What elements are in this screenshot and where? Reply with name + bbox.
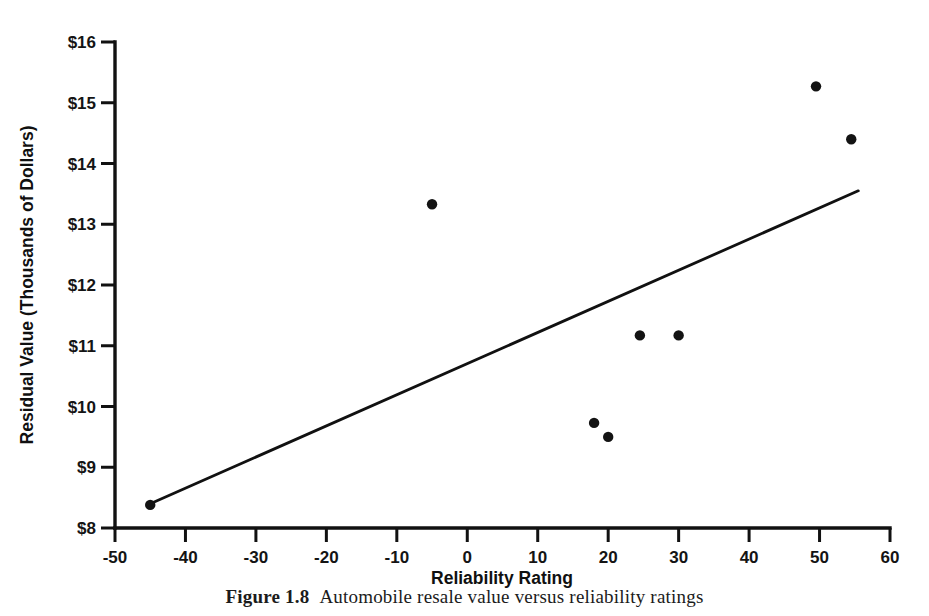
y-tick-label: $14 xyxy=(68,155,97,174)
x-tick-label: 40 xyxy=(740,548,759,567)
x-tick-label: 20 xyxy=(599,548,618,567)
figure-caption-text: Automobile resale value versus reliabili… xyxy=(319,586,703,607)
x-tick-label: -50 xyxy=(103,548,128,567)
y-tick-label: $10 xyxy=(68,398,96,417)
x-tick-label: 30 xyxy=(669,548,688,567)
x-tick-label: 0 xyxy=(463,548,472,567)
figure-caption: Figure 1.8 Automobile resale value versu… xyxy=(0,586,929,608)
data-point xyxy=(589,418,599,428)
y-tick-label: $12 xyxy=(68,276,96,295)
data-point xyxy=(427,199,437,209)
y-tick-label: $11 xyxy=(69,337,96,356)
x-tick-label: -20 xyxy=(314,548,339,567)
x-tick-label: 60 xyxy=(881,548,900,567)
x-tick-label: 10 xyxy=(528,548,547,567)
x-tick-label: -40 xyxy=(173,548,198,567)
y-tick-label: $16 xyxy=(68,33,96,52)
scatter-plot: $8$9$10$11$12$13$14$15$16 Residual Value… xyxy=(0,0,929,616)
x-tick-label: -10 xyxy=(385,548,410,567)
data-point xyxy=(846,134,856,144)
x-axis-title: Reliability Rating xyxy=(431,568,573,588)
data-point xyxy=(635,330,645,340)
data-point xyxy=(811,81,821,91)
y-tick-label: $13 xyxy=(68,215,96,234)
y-tick-label: $15 xyxy=(68,94,96,113)
data-point xyxy=(673,330,683,340)
y-tick-label: $9 xyxy=(77,458,96,477)
figure-container: $8$9$10$11$12$13$14$15$16 Residual Value… xyxy=(0,0,929,616)
plot-background xyxy=(0,0,929,616)
figure-caption-label: Figure 1.8 xyxy=(226,586,310,607)
y-tick-label: $8 xyxy=(77,519,96,538)
y-axis-title: Residual Value (Thousands of Dollars) xyxy=(17,126,37,445)
x-tick-label: -30 xyxy=(244,548,269,567)
x-tick-label: 50 xyxy=(810,548,829,567)
data-point xyxy=(145,500,155,510)
data-point xyxy=(603,432,613,442)
